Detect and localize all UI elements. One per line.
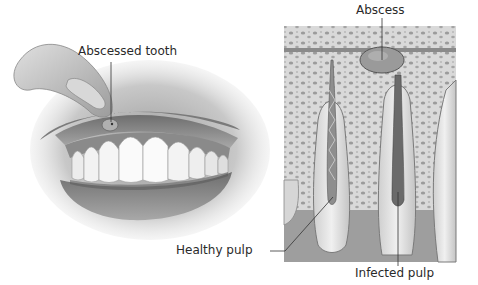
abscess-bump <box>102 119 118 131</box>
label-infected-pulp: Infected pulp <box>355 266 434 280</box>
label-healthy-pulp: Healthy pulp <box>176 243 253 257</box>
label-abscess: Abscess <box>356 3 405 17</box>
label-abscessed-tooth: Abscessed tooth <box>78 44 177 58</box>
tooth-cross-section <box>270 18 456 266</box>
mouth-illustration <box>14 44 270 240</box>
